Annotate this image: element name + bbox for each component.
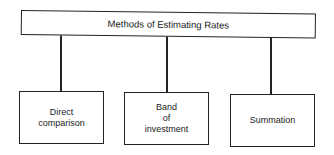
child-node-label: Band of investment [145, 102, 189, 135]
connector-root-to-direct-comparison [60, 34, 62, 92]
child-node-direct-comparison: Direct comparison [19, 91, 104, 144]
root-node-methods-of-estimating-rates: Methods of Estimating Rates [21, 10, 316, 39]
child-node-summation: Summation [230, 94, 315, 147]
connector-root-to-band-of-investment [166, 35, 168, 93]
connector-root-to-summation [270, 37, 272, 95]
child-node-band-of-investment: Band of investment [124, 92, 209, 145]
child-node-label: Summation [250, 115, 296, 126]
root-node-label: Methods of Estimating Rates [108, 18, 230, 30]
child-node-label: Direct comparison [38, 107, 85, 129]
